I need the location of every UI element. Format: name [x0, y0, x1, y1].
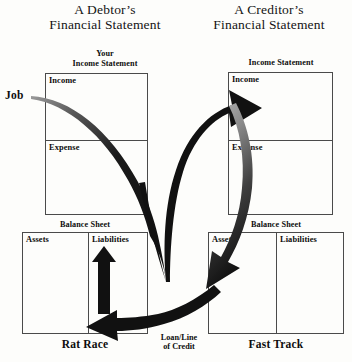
page-title-debtor-line1: A Debtor’s [20, 3, 190, 18]
diagram-canvas: A Debtor’s Financial Statement A Credito… [0, 0, 352, 362]
right-expense-label: Expense [232, 143, 262, 152]
loan-line-of-credit-label-line1: Loan/Line [148, 333, 210, 342]
job-label: Job [5, 89, 24, 101]
job-arrow-tip [150, 236, 166, 281]
right-assets-label: Assets [212, 235, 235, 244]
left-income-statement-caption-line2: Income Statement [55, 59, 155, 69]
left-income-statement-caption-line1: Your [55, 49, 155, 59]
left-assets-label: Assets [26, 235, 49, 244]
page-title-creditor-line1: A Creditor’s [186, 3, 352, 18]
left-balance-sheet-box [22, 232, 148, 334]
left-balance-sheet-divider [88, 232, 89, 334]
loan-line-of-credit-label-line2: of Credit [148, 342, 210, 351]
page-title-creditor-line2: Financial Statement [186, 18, 352, 33]
right-income-statement-caption: Income Statement [228, 58, 334, 68]
left-balance-sheet-caption: Balance Sheet [22, 220, 148, 230]
right-income-label: Income [232, 75, 259, 84]
left-expense-label: Expense [49, 143, 79, 152]
left-income-statement-divider [45, 140, 148, 141]
left-liabilities-label: Liabilities [92, 235, 129, 244]
page-title-debtor-line2: Financial Statement [20, 18, 190, 33]
left-income-label: Income [49, 76, 76, 85]
right-footer-label: Fast Track [208, 338, 344, 350]
loan-line-of-credit-label: Loan/Line of Credit [148, 333, 210, 352]
left-footer-label: Rat Race [22, 338, 148, 350]
left-income-statement-caption: Your Income Statement [55, 49, 155, 68]
right-income-statement-divider [228, 140, 333, 141]
page-title-creditor: A Creditor’s Financial Statement [186, 3, 352, 32]
right-balance-sheet-caption: Balance Sheet [208, 220, 344, 230]
right-liabilities-label: Liabilities [280, 235, 317, 244]
right-balance-sheet-divider [276, 232, 277, 334]
page-title-debtor: A Debtor’s Financial Statement [20, 3, 190, 32]
